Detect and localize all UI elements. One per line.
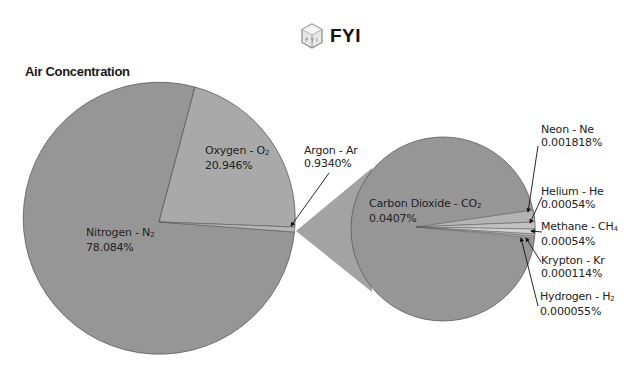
label-krypton: Krypton - Kr 0.000114%	[541, 254, 605, 280]
label-argon: Argon - Ar 0.9340%	[304, 144, 358, 170]
label-nitrogen: Nitrogen - N2 78.084%	[86, 226, 154, 254]
label-hydrogen: Hydrogen - H2 0.000055%	[540, 290, 615, 318]
label-helium: Helium - He 0.00054%	[541, 185, 604, 211]
label-neon: Neon - Ne 0.001818%	[541, 123, 602, 149]
label-oxygen: Oxygen - O2 20.946%	[205, 144, 269, 172]
arrow-neon	[528, 146, 538, 212]
label-co2: Carbon Dioxide - CO2 0.0407%	[369, 197, 481, 225]
label-methane: Methane - CH4 0.00054%	[541, 220, 618, 248]
trace-pie	[351, 137, 535, 321]
main-pie	[23, 82, 295, 354]
